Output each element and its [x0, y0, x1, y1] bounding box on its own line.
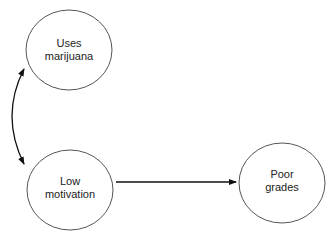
- node-grades-line1: Poor: [237, 168, 327, 181]
- node-marijuana-line1: Uses: [24, 37, 114, 50]
- node-motivation-label: Low motivation: [25, 175, 115, 201]
- node-grades-line2: grades: [237, 181, 327, 194]
- node-grades-label: Poor grades: [237, 168, 327, 194]
- bidirectional-arrow: [12, 69, 24, 164]
- node-marijuana-line2: marijuana: [24, 50, 114, 63]
- node-motivation-line2: motivation: [25, 188, 115, 201]
- node-motivation-line1: Low: [25, 175, 115, 188]
- causal-diagram: Uses marijuana Low motivation Poor grade…: [0, 0, 331, 233]
- node-marijuana-label: Uses marijuana: [24, 37, 114, 63]
